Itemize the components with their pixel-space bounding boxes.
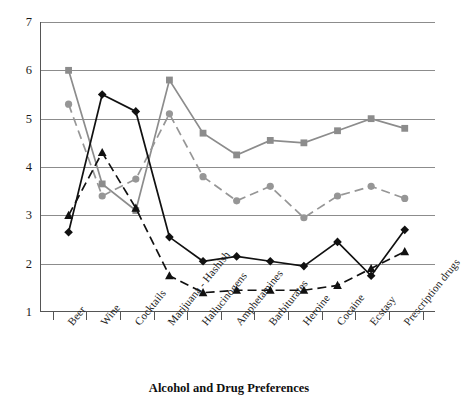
data-point-marker — [165, 271, 174, 279]
data-point-marker — [401, 125, 408, 132]
data-point-marker — [267, 183, 274, 190]
data-point-marker — [64, 228, 73, 237]
data-point-marker — [200, 130, 207, 137]
data-point-marker — [400, 247, 409, 255]
data-point-marker — [132, 175, 139, 182]
series-gray-square-solid — [65, 67, 408, 214]
y-tick-label-4: 4 — [0, 161, 32, 174]
data-point-marker — [233, 197, 240, 204]
data-point-marker — [64, 211, 73, 219]
data-point-marker — [333, 281, 342, 289]
data-point-marker — [401, 195, 408, 202]
series-gray-circle-dashed — [65, 101, 408, 222]
y-tick-label-2: 2 — [0, 257, 32, 270]
series-line — [69, 70, 405, 210]
series-line — [69, 95, 405, 276]
data-point-marker — [98, 148, 107, 156]
data-point-marker — [233, 152, 240, 159]
data-point-marker — [267, 137, 274, 144]
data-point-marker — [334, 127, 341, 134]
data-point-marker — [367, 264, 376, 272]
x-axis-title: Alcohol and Drug Preferences — [0, 381, 458, 396]
data-point-marker — [98, 90, 107, 99]
data-point-marker — [199, 173, 206, 180]
data-point-marker — [334, 192, 341, 199]
data-point-marker — [65, 67, 72, 74]
data-point-marker — [99, 181, 106, 188]
data-point-marker — [166, 77, 173, 84]
data-point-marker — [300, 139, 307, 146]
series-black-diamond-solid — [64, 90, 409, 280]
data-point-marker — [232, 252, 241, 261]
y-tick-label-7: 7 — [0, 16, 32, 29]
data-point-marker — [368, 115, 375, 122]
y-tick-label-5: 5 — [0, 112, 32, 125]
data-series-layer — [40, 22, 435, 312]
y-tick-label-3: 3 — [0, 209, 32, 222]
data-point-marker — [300, 214, 307, 221]
y-tick-label-1: 1 — [0, 306, 32, 319]
data-point-marker — [166, 110, 173, 117]
data-point-marker — [132, 107, 141, 116]
data-point-marker — [65, 101, 72, 108]
y-tick-label-6: 6 — [0, 64, 32, 77]
data-point-marker — [368, 183, 375, 190]
data-point-marker — [266, 257, 275, 266]
data-point-marker — [99, 192, 106, 199]
